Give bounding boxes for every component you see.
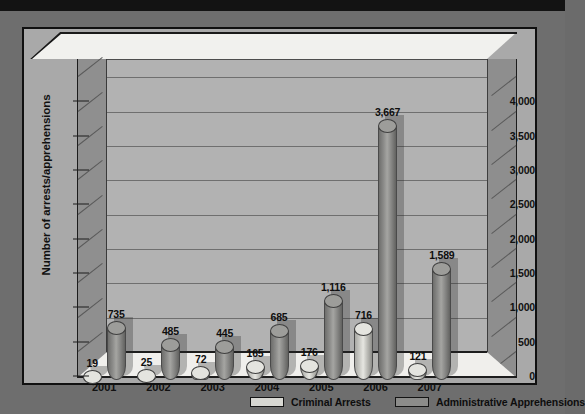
chart-frame: Number of arrests/apprehensions 20012002… <box>22 27 537 385</box>
gridline <box>107 180 487 181</box>
bar-crim-2005[interactable] <box>300 359 319 380</box>
chart-legend: Criminal ArrestsAdministrative Apprehens… <box>0 392 565 414</box>
bar-top-cap <box>408 363 427 377</box>
scan-top-band <box>0 0 565 11</box>
bar-value-label: 1,116 <box>308 281 358 293</box>
y-tick-mark <box>73 204 89 205</box>
bar-admin-2001[interactable] <box>107 321 126 380</box>
bar-crim-2006[interactable] <box>354 322 373 380</box>
right-wall-tick-line <box>491 179 516 199</box>
right-wall-tick-line <box>491 248 516 268</box>
bar-crim-2004[interactable] <box>246 360 265 380</box>
y-tick-label: 3,000 <box>491 164 535 176</box>
y-tick-mark <box>73 376 89 377</box>
y-tick-label: 3,500 <box>491 130 535 142</box>
right-wall-tick-line <box>491 214 516 234</box>
bar-body <box>432 269 451 380</box>
y-axis: Number of arrests/apprehensions <box>24 29 73 387</box>
y-tick-label: 1,500 <box>491 267 535 279</box>
right-wall-tick-line <box>491 111 516 131</box>
right-wall-tick-line <box>491 282 516 302</box>
legend-label: Criminal Arrests <box>291 396 371 408</box>
y-tick-label: 2,500 <box>491 198 535 210</box>
bar-crim-2003[interactable] <box>191 366 210 380</box>
gridline <box>107 112 487 113</box>
bar-value-label: 735 <box>91 308 141 320</box>
gridline <box>107 283 487 284</box>
y-tick-mark <box>73 101 89 102</box>
bar-crim-2007[interactable] <box>408 363 427 380</box>
y-tick-label: 2,000 <box>491 233 535 245</box>
bar-top-cap <box>83 370 102 384</box>
bar-admin-2007[interactable] <box>432 262 451 380</box>
bar-top-cap <box>107 321 126 335</box>
bar-crim-2002[interactable] <box>137 369 156 380</box>
y-tick-mark <box>73 169 89 170</box>
legend-swatch-icon <box>250 397 284 407</box>
right-wall-tick-line <box>491 317 516 337</box>
y-tick-mark <box>73 238 89 239</box>
bar-top-cap <box>270 324 289 338</box>
bar-top-cap <box>300 359 319 373</box>
y-tick-label: 500 <box>491 336 535 348</box>
left-wall-tick-line <box>78 57 103 77</box>
legend-item-crim[interactable]: Criminal Arrests <box>250 396 371 408</box>
bar-top-cap <box>378 119 397 133</box>
right-wall-tick-line <box>491 76 516 96</box>
bar-body <box>107 328 126 380</box>
plot-back-wall <box>107 59 487 353</box>
y-axis-title: Number of arrests/apprehensions <box>40 70 52 300</box>
bar-admin-2006[interactable] <box>378 119 397 380</box>
legend-item-admin[interactable]: Administrative Apprehensions <box>395 396 585 408</box>
gridline <box>107 77 487 78</box>
bar-value-label: 445 <box>200 327 250 339</box>
bar-admin-2005[interactable] <box>324 294 343 380</box>
bar-value-label: 3,667 <box>363 106 413 118</box>
bar-top-cap <box>161 338 180 352</box>
bar-value-label: 1,589 <box>417 249 467 261</box>
bar-body <box>354 329 373 380</box>
bar-value-label: 685 <box>254 311 304 323</box>
legend-swatch-icon <box>395 397 429 407</box>
chart-3d-scene: Number of arrests/apprehensions 20012002… <box>24 29 535 383</box>
gridline <box>107 146 487 147</box>
y-tick-mark <box>73 135 89 136</box>
legend-label: Administrative Apprehensions <box>436 396 585 408</box>
y-tick-label: 0 <box>491 370 535 382</box>
y-tick-label: 1,000 <box>491 301 535 313</box>
gridline <box>107 215 487 216</box>
bar-value-label: 485 <box>145 325 195 337</box>
bar-top-cap <box>354 322 373 336</box>
bar-body <box>378 126 397 380</box>
y-tick-mark <box>73 307 89 308</box>
plot-left-wall <box>77 59 107 378</box>
chart-top-bevel <box>30 32 517 59</box>
y-tick-label: 4,000 <box>491 95 535 107</box>
y-tick-mark <box>73 341 89 342</box>
bar-top-cap <box>246 360 265 374</box>
bar-top-cap <box>432 262 451 276</box>
right-wall-tick-line <box>491 145 516 165</box>
y-tick-mark <box>73 272 89 273</box>
